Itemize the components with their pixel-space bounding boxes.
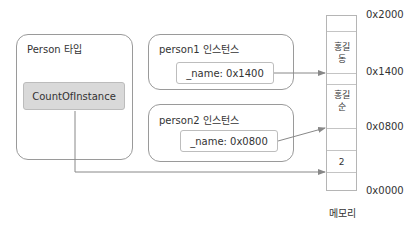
arrow-person2-to-gilsun xyxy=(278,128,325,141)
arrow-count-to-memory xyxy=(75,111,325,172)
pointer-arrows xyxy=(0,0,409,227)
